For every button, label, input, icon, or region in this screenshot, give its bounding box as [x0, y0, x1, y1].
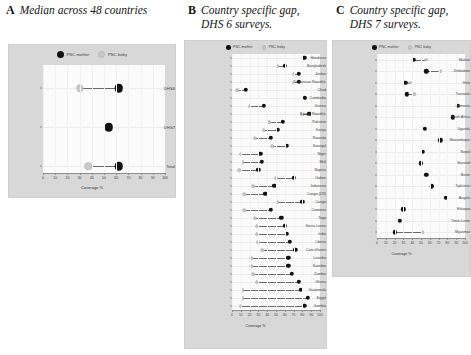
panel-a: A Median across 48 countries PNC mother …	[0, 0, 182, 355]
country-label: Tanzania	[429, 92, 470, 96]
country-label: Myanmar	[429, 230, 470, 234]
point-mother	[405, 92, 409, 96]
country-label: India	[282, 232, 326, 236]
legend-mother-label: PNC mother	[66, 52, 89, 57]
x-tick-label: 80	[446, 241, 450, 245]
country-label: Pakistan	[282, 120, 326, 124]
country-label: Senegal	[282, 144, 326, 148]
point-mother	[424, 69, 428, 73]
panel-b-title: Country specific gap, DHS 6 surveys.	[201, 4, 300, 31]
country-label: Chad	[282, 88, 326, 92]
x-tick-label: 30	[402, 241, 406, 245]
country-label: Haiti	[429, 81, 470, 85]
point-baby	[424, 58, 428, 62]
x-tick-label: 70	[127, 176, 131, 180]
legend-baby-label: PNC baby	[415, 45, 431, 49]
figure-container: A Median across 48 countries PNC mother …	[0, 0, 471, 355]
country-label: Guinea	[282, 104, 326, 108]
point-baby	[251, 184, 255, 188]
x-tick-label: 100	[317, 313, 322, 317]
x-tick-label: 40	[90, 176, 94, 180]
point-baby	[253, 216, 257, 220]
country-label: South Africa	[429, 115, 470, 119]
panel-c-header: C Country specific gap, DHS 7 surveys.	[336, 4, 469, 31]
legend-item-baby: PNC baby	[262, 45, 285, 50]
panel-b-header: B Country specific gap, DHS 6 surveys.	[188, 4, 328, 31]
point-mother	[260, 160, 264, 164]
panel-a-ytick-label: DHS7	[145, 125, 175, 130]
panel-b-letter: B	[188, 4, 196, 18]
panel-b-legend: PNC mother PNC baby	[185, 45, 326, 50]
x-tick-label: 50	[102, 176, 106, 180]
legend-baby-dot-icon	[408, 45, 413, 50]
legend-item-baby: PNC baby	[98, 51, 127, 58]
country-label: Ghana	[282, 280, 326, 284]
x-tick-label: 20	[66, 176, 70, 180]
country-label: Egypt	[282, 296, 326, 300]
x-tick-label: 50	[274, 313, 278, 317]
country-label: Benin	[429, 173, 470, 177]
panel-a-ytick-label: DHS6	[145, 86, 175, 91]
point-mother	[261, 104, 265, 108]
legend-baby-dot-icon	[98, 51, 105, 58]
country-label: Kenya	[282, 128, 326, 132]
x-tick-label: 80	[139, 176, 143, 180]
panel-b-xaxis-title: Coverage %	[185, 324, 326, 328]
point-baby	[235, 88, 239, 92]
x-tick-label: 60	[114, 176, 118, 180]
country-label: Namibia	[282, 264, 326, 268]
x-tick-label: 40	[410, 241, 414, 245]
x-tick-label: 10	[53, 176, 57, 180]
x-tick-label: 100	[462, 241, 467, 245]
country-label: Mozambique	[429, 138, 470, 142]
point-baby	[262, 128, 266, 132]
country-label: Zambia	[282, 272, 326, 276]
country-label: Lesotho	[282, 256, 326, 260]
panel-c-title: Country specific gap, DHS 7 surveys.	[350, 4, 449, 31]
legend-mother-dot-icon	[372, 45, 377, 50]
country-label: Gambia	[282, 304, 326, 308]
panel-a-letter: A	[6, 4, 15, 18]
legend-item-baby: PNC baby	[408, 45, 431, 50]
country-label: Guatemala	[282, 288, 326, 292]
point-baby	[243, 208, 247, 212]
country-label: Bangladesh	[282, 64, 326, 68]
legend-mother-dot-icon	[57, 51, 64, 58]
point-mother	[105, 123, 114, 132]
country-label: Kyrgyz Republic	[282, 112, 326, 116]
x-tick-label: 50	[419, 241, 423, 245]
x-tick-label: 0	[376, 241, 378, 245]
x-tick-label: 70	[437, 241, 441, 245]
panel-c-legend: PNC mother PNC baby	[333, 45, 470, 50]
x-tick-label: 80	[301, 313, 305, 317]
panel-c: C Country specific gap, DHS 7 surveys. P…	[330, 0, 471, 355]
x-tick-label: 100	[162, 176, 168, 180]
panel-a-xaxis-title: Coverage %	[9, 185, 175, 190]
x-tick-label: 90	[454, 241, 458, 245]
panel-a-ytick-label: Total	[145, 164, 175, 169]
country-label: Timor-Leste	[429, 219, 470, 223]
legend-baby-dot-icon	[262, 45, 267, 50]
country-label: Rwanda	[282, 136, 326, 140]
point-mother	[269, 136, 273, 140]
country-label: Togo	[282, 216, 326, 220]
country-label: Malawi	[429, 58, 470, 62]
country-label: Nigeria	[282, 168, 326, 172]
x-tick-label: 30	[78, 176, 82, 180]
legend-mother-label: PNC mother	[233, 45, 253, 49]
x-tick-label: 0	[231, 313, 233, 317]
country-label: Jordan	[282, 72, 326, 76]
country-label: Congo (DR)	[282, 192, 326, 196]
panel-a-title: Median across 48 countries	[20, 4, 148, 18]
x-tick-label: 70	[292, 313, 296, 317]
x-tick-label: 30	[257, 313, 261, 317]
panel-c-plot-area: PNC mother PNC baby Coverage % MalawiZim…	[332, 40, 471, 277]
point-baby	[260, 248, 264, 252]
x-tick-label: 60	[283, 313, 287, 317]
country-label: Ethiopia	[429, 207, 470, 211]
x-tick-label: 10	[239, 313, 243, 317]
x-tick-label: 0	[42, 176, 44, 180]
panel-a-plot-area: PNC mother PNC baby	[8, 44, 176, 198]
country-label: Mali	[282, 160, 326, 164]
panel-b-plot-area: PNC mother PNC baby Coverage % HondurasB…	[184, 40, 327, 349]
